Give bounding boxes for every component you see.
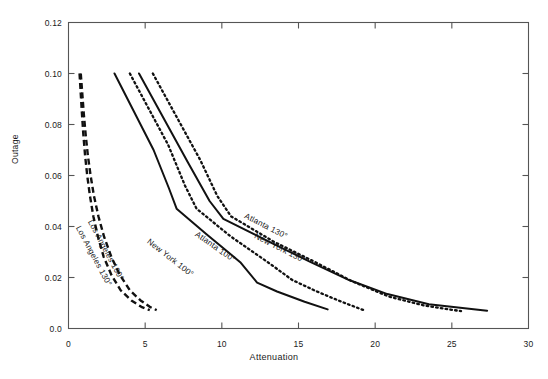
x-tick-label: 5 bbox=[143, 339, 148, 349]
series-line bbox=[153, 74, 461, 312]
x-tick-label: 0 bbox=[66, 339, 71, 349]
y-tick-label: 0.12 bbox=[20, 18, 62, 28]
y-tick-label: 0.0 bbox=[20, 324, 62, 334]
x-tick-label: 25 bbox=[447, 339, 457, 349]
y-axis-label: Outage bbox=[10, 150, 20, 164]
series-line bbox=[130, 74, 364, 311]
chart-figure: Outage Attenuation 0510152025300.00.020.… bbox=[0, 0, 548, 379]
x-axis-label: Attenuation bbox=[0, 352, 548, 362]
y-tick-label: 0.08 bbox=[20, 120, 62, 130]
y-tick-label: 0.02 bbox=[20, 273, 62, 283]
axis-frame bbox=[69, 23, 529, 329]
chart-plot-area bbox=[0, 0, 548, 379]
x-tick-label: 10 bbox=[217, 339, 227, 349]
y-tick-label: 0.04 bbox=[20, 222, 62, 232]
y-tick-label: 0.06 bbox=[20, 171, 62, 181]
series-line bbox=[115, 74, 328, 310]
x-tick-label: 20 bbox=[370, 339, 380, 349]
x-tick-label: 30 bbox=[524, 339, 534, 349]
y-tick-label: 0.10 bbox=[20, 69, 62, 79]
x-tick-label: 15 bbox=[294, 339, 304, 349]
